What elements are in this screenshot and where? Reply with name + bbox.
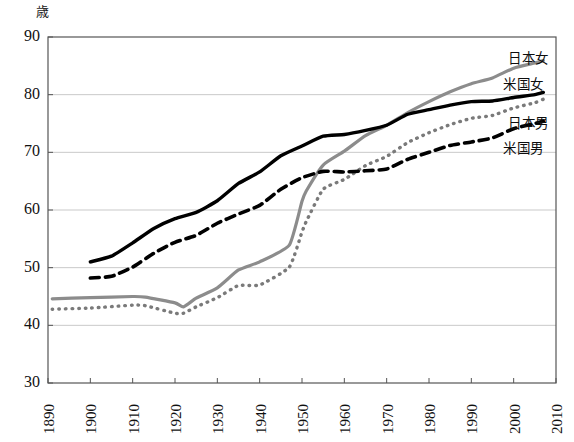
x-tick-label-1920: 1920 [168,404,185,434]
series-label-日本女: 日本女 [508,47,549,67]
x-tick-label-1910: 1910 [126,404,143,434]
y-axis-unit-label: 歳 [36,1,49,20]
x-tick-label-1970: 1970 [380,404,397,434]
x-tick-label-1980: 1980 [422,404,439,434]
x-tick-label-1890: 1890 [41,404,58,434]
x-tick-label-2010: 2010 [549,404,566,434]
series-line-1 [90,92,543,262]
x-tick-label-1930: 1930 [210,404,227,434]
y-tick-label-90: 90 [10,27,40,45]
series-label-米国男: 米国男 [503,137,544,157]
y-tick-label-60: 60 [10,200,40,218]
x-tick-label-1950: 1950 [295,404,312,434]
y-tick-label-30: 30 [10,373,40,391]
data-series [52,61,543,314]
y-tick-label-50: 50 [10,258,40,276]
y-tick-label-70: 70 [10,142,40,160]
gridlines [48,95,556,326]
x-tick-label-2000: 2000 [507,404,524,434]
x-tick-label-1990: 1990 [464,404,481,434]
life-expectancy-chart: 歳 90807060504030 18901900191019201930194… [0,0,574,442]
series-label-米国女: 米国女 [503,73,544,93]
x-tick-label-1940: 1940 [253,404,270,434]
y-tick-label-80: 80 [10,85,40,103]
x-tick-label-1960: 1960 [337,404,354,434]
x-tick-label-1900: 1900 [83,404,100,434]
y-tick-label-40: 40 [10,315,40,333]
series-line-2 [52,99,543,313]
chart-canvas [0,0,574,442]
series-label-日本男: 日本男 [508,112,549,132]
